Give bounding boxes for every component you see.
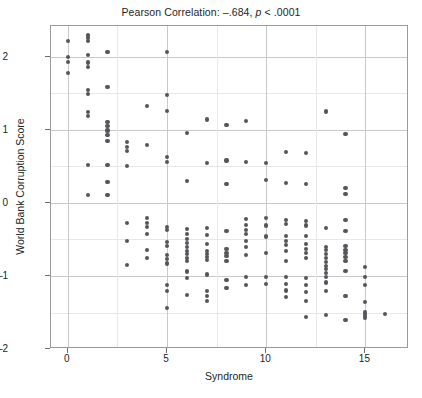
gridline-vertical	[167, 26, 168, 347]
data-point	[244, 253, 248, 257]
data-point	[284, 234, 288, 238]
data-point	[343, 294, 347, 298]
data-point	[205, 242, 209, 246]
data-point	[125, 149, 129, 153]
y-tick-mark	[45, 56, 50, 57]
gridline-vertical-minor	[117, 26, 118, 347]
data-point	[165, 109, 169, 113]
data-point	[205, 294, 209, 298]
data-point	[185, 269, 189, 273]
gridline-horizontal	[51, 130, 407, 131]
data-point	[165, 283, 169, 287]
data-point	[304, 223, 308, 227]
chart-title-suffix: < .0001	[262, 6, 301, 18]
data-point	[363, 316, 367, 320]
data-point	[165, 50, 169, 54]
data-point	[105, 163, 109, 167]
data-point	[343, 192, 347, 196]
data-point	[145, 248, 149, 252]
data-point	[66, 39, 70, 43]
y-tick-mark	[45, 129, 50, 130]
gridline-vertical-minor	[217, 26, 218, 347]
data-point	[284, 249, 288, 253]
data-point	[205, 161, 209, 165]
data-point	[205, 289, 209, 293]
data-point	[324, 280, 328, 284]
gridline-horizontal	[51, 57, 407, 58]
y-tick-mark	[45, 348, 50, 349]
data-point	[86, 92, 90, 96]
data-point	[205, 233, 209, 237]
data-point	[264, 216, 268, 220]
data-point	[244, 160, 248, 164]
gridline-horizontal-minor	[51, 166, 407, 167]
data-point	[304, 234, 308, 238]
data-point	[185, 276, 189, 280]
data-point	[324, 289, 328, 293]
chart-title: Pearson Correlation: –.684, p < .0001	[0, 6, 422, 18]
data-point	[105, 139, 109, 143]
data-point	[343, 218, 347, 222]
data-point	[284, 288, 288, 292]
data-point	[224, 229, 228, 233]
data-point	[125, 263, 129, 267]
gridline-vertical	[365, 26, 366, 347]
x-axis-label: Syndrome	[50, 370, 408, 382]
data-point	[363, 265, 367, 269]
data-point	[145, 216, 149, 220]
data-point	[244, 275, 248, 279]
gridline-horizontal-minor	[51, 313, 407, 314]
data-point	[86, 114, 90, 118]
data-point	[264, 178, 268, 182]
data-point	[264, 251, 268, 255]
y-tick-label: 0	[0, 196, 8, 207]
data-point	[125, 239, 129, 243]
data-point	[264, 282, 268, 286]
data-point	[165, 228, 169, 232]
data-point	[125, 140, 129, 144]
y-axis-label: World Bank Corruption Score	[14, 25, 28, 348]
data-point	[264, 275, 268, 279]
x-tick-label: 5	[151, 353, 181, 364]
y-tick-label: 1	[0, 123, 8, 134]
gridline-horizontal	[51, 276, 407, 277]
data-point	[185, 227, 189, 231]
data-point	[105, 85, 109, 89]
data-point	[224, 286, 228, 290]
data-point	[185, 259, 189, 263]
data-point	[165, 261, 169, 265]
data-point	[105, 180, 109, 184]
data-point	[343, 132, 347, 136]
data-point	[86, 53, 90, 57]
data-point	[244, 283, 248, 287]
data-point	[244, 245, 248, 249]
data-point	[105, 193, 109, 197]
x-tick-label: 0	[52, 353, 82, 364]
data-point	[66, 60, 70, 64]
chart-title-prefix: Pearson Correlation: –.684,	[121, 6, 255, 18]
y-tick-mark	[45, 202, 50, 203]
data-point	[105, 128, 109, 132]
data-point	[363, 300, 367, 304]
gridline-horizontal-minor	[51, 239, 407, 240]
data-point	[284, 150, 288, 154]
data-point	[165, 93, 169, 97]
data-point	[185, 179, 189, 183]
data-point	[224, 123, 228, 127]
data-point	[264, 223, 268, 227]
data-point	[284, 282, 288, 286]
plot-area	[50, 25, 408, 348]
data-point	[205, 226, 209, 230]
y-tick-label: –2	[0, 343, 8, 354]
data-point	[224, 182, 228, 186]
data-point	[66, 55, 70, 59]
data-point	[284, 295, 288, 299]
y-tick-mark	[45, 275, 50, 276]
data-point	[304, 315, 308, 319]
gridline-horizontal	[51, 203, 407, 204]
data-point	[145, 256, 149, 260]
x-tick-label: 15	[349, 353, 379, 364]
data-point	[343, 186, 347, 190]
data-point	[284, 222, 288, 226]
data-point	[145, 104, 149, 108]
